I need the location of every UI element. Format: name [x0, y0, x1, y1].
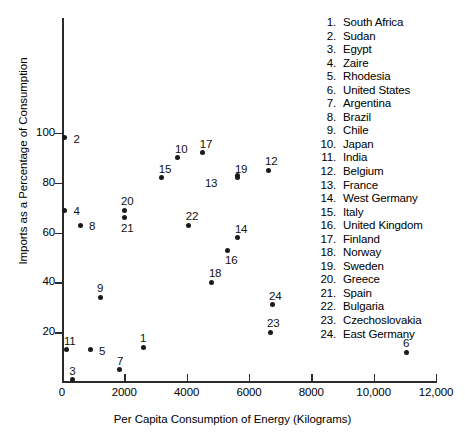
legend-item-name: West Germany: [336, 192, 418, 206]
legend-item-number: 13.: [316, 179, 336, 193]
data-point-label: 10: [175, 143, 187, 155]
data-point: [266, 168, 271, 173]
legend-item-name: Spain: [336, 287, 372, 301]
legend-item: 14.West Germany: [316, 192, 456, 206]
data-point: [122, 215, 127, 220]
legend-item: 2.Sudan: [316, 30, 456, 44]
x-tick-label: 6000: [236, 386, 261, 398]
legend-item: 12.Belgium: [316, 165, 456, 179]
data-point-label: 8: [89, 220, 95, 232]
data-point-label: 6: [403, 337, 409, 349]
data-point-label: 13: [205, 177, 217, 189]
legend-item-number: 8.: [316, 111, 336, 125]
legend-item-number: 9.: [316, 124, 336, 138]
data-point-label: 24: [269, 290, 281, 302]
legend-item: 10.Japan: [316, 138, 456, 152]
data-point-label: 11: [64, 335, 76, 347]
data-point: [78, 223, 83, 228]
legend-item-name: India: [336, 151, 367, 165]
data-point-label: 15: [159, 163, 171, 175]
legend-item-name: Greece: [336, 273, 380, 287]
legend-item-name: Egypt: [336, 43, 372, 57]
legend-item-number: 17.: [316, 233, 336, 247]
legend-item-name: Zaire: [336, 57, 368, 71]
legend-item-name: Belgium: [336, 165, 384, 179]
legend-item: 16.United Kingdom: [316, 219, 456, 233]
legend-item-number: 24.: [316, 328, 336, 342]
legend-item: 6.United States: [316, 84, 456, 98]
y-tick-mark: [55, 332, 62, 333]
x-tick-label: 4000: [174, 386, 199, 398]
legend-item-number: 2.: [316, 30, 336, 44]
data-point-label: 21: [121, 222, 133, 234]
legend-item-name: Brazil: [336, 111, 371, 125]
data-point-label: 9: [97, 282, 103, 294]
data-point: [270, 302, 275, 307]
legend-item: 18.Norway: [316, 246, 456, 260]
data-point-label: 7: [117, 355, 123, 367]
scatter-chart-figure: 20406080100 0200040006000800010,00012,00…: [0, 0, 465, 440]
data-point-label: 22: [186, 210, 198, 222]
data-point: [98, 295, 103, 300]
data-point: [70, 377, 75, 382]
legend-item-name: Sweden: [336, 260, 384, 274]
legend-item-number: 7.: [316, 97, 336, 111]
legend-item: 4.Zaire: [316, 57, 456, 71]
data-point-label: 19: [235, 163, 247, 175]
data-point-label: 5: [99, 345, 105, 357]
legend-item: 22.Bulgaria: [316, 300, 456, 314]
data-point-label: 2: [73, 133, 79, 145]
y-tick-mark: [55, 183, 62, 184]
legend-item: 24.East Germany: [316, 328, 456, 342]
data-point: [62, 208, 67, 213]
legend-item-name: France: [336, 179, 378, 193]
legend-item-name: Czechoslovakia: [336, 314, 421, 328]
legend-item: 20.Greece: [316, 273, 456, 287]
legend-item: 17.Finland: [316, 233, 456, 247]
data-point-label: 12: [265, 155, 277, 167]
y-tick-mark: [55, 233, 62, 234]
legend-item-number: 19.: [316, 260, 336, 274]
legend-item: 13.France: [316, 179, 456, 193]
y-tick-mark: [55, 282, 62, 283]
legend-item-name: Finland: [336, 233, 380, 247]
legend-item-number: 21.: [316, 287, 336, 301]
legend-item: 9.Chile: [316, 124, 456, 138]
data-point: [268, 330, 273, 335]
legend-item-number: 3.: [316, 43, 336, 57]
legend-item-number: 14.: [316, 192, 336, 206]
legend-item-name: Bulgaria: [336, 300, 384, 314]
legend-item-name: United Kingdom: [336, 219, 423, 233]
legend-item-number: 6.: [316, 84, 336, 98]
data-point-label: 3: [69, 365, 75, 377]
legend-item: 1.South Africa: [316, 16, 456, 30]
data-point-label: 18: [209, 267, 221, 279]
y-tick-mark: [55, 133, 62, 134]
y-tick-label: 20: [21, 326, 55, 337]
legend-item: 23.Czechoslovakia: [316, 314, 456, 328]
legend-item-number: 5.: [316, 70, 336, 84]
legend-item-name: Chile: [336, 124, 368, 138]
legend-item-number: 11.: [316, 151, 336, 165]
legend-item: 3.Egypt: [316, 43, 456, 57]
x-tick-label: 2000: [112, 386, 137, 398]
legend-item-number: 12.: [316, 165, 336, 179]
legend-item-name: Argentina: [336, 97, 391, 111]
x-tick-label: 10,000: [356, 386, 391, 398]
data-point: [122, 208, 127, 213]
data-point-label: 20: [121, 195, 133, 207]
data-point-label: 1: [140, 332, 146, 344]
legend: 1.South Africa2.Sudan3.Egypt4.Zaire5.Rho…: [316, 16, 456, 341]
legend-item-number: 4.: [316, 57, 336, 71]
x-axis-title: Per Capita Consumption of Energy (Kilogr…: [0, 413, 465, 425]
legend-item: 8.Brazil: [316, 111, 456, 125]
legend-item-name: United States: [336, 84, 410, 98]
x-tick-mark: [436, 374, 437, 382]
data-point-label: 16: [225, 254, 237, 266]
y-axis-title: Imports as a Percentage of Consumption: [17, 46, 29, 276]
legend-item: 21.Spain: [316, 287, 456, 301]
legend-item-name: Sudan: [336, 30, 376, 44]
legend-item-number: 22.: [316, 300, 336, 314]
legend-item: 15.Italy: [316, 206, 456, 220]
legend-item-number: 20.: [316, 273, 336, 287]
